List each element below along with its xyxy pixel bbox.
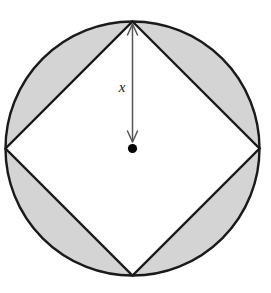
center-point-dot <box>128 144 137 153</box>
geometry-figure-container: x <box>0 0 271 293</box>
dimension-label-x: x <box>118 79 126 95</box>
geometry-diagram: x <box>0 0 271 293</box>
